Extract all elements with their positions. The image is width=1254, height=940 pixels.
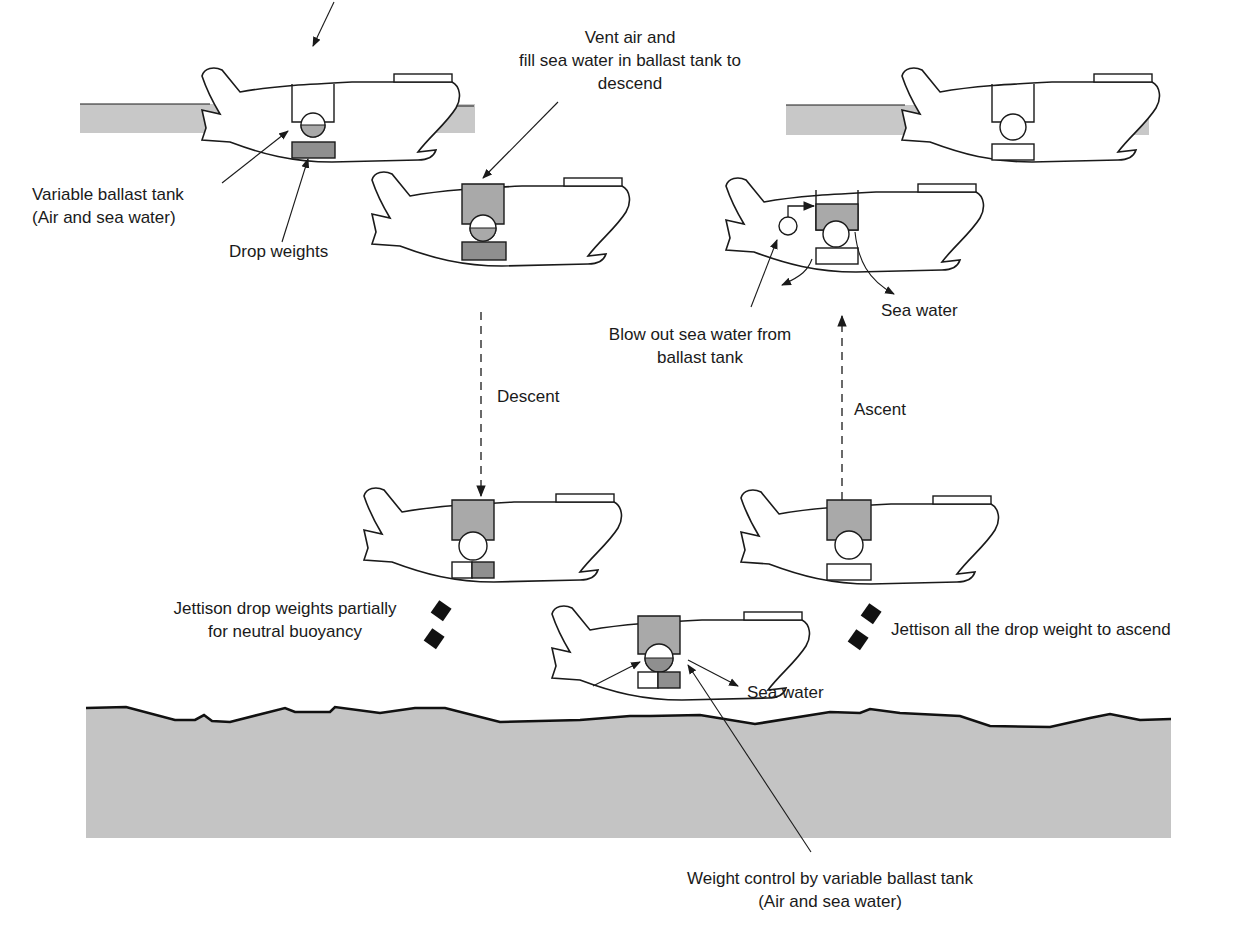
submarine-descending-neutral xyxy=(364,488,621,582)
descent-label: Descent xyxy=(497,385,559,408)
jettison-partial-line-1: Jettison drop weights partially xyxy=(140,597,430,620)
submarine-diving xyxy=(372,172,629,266)
jettison-partial-line-2: for neutral buoyancy xyxy=(140,620,430,643)
ballast-diagram xyxy=(0,0,1254,940)
vent-air-line-3: descend xyxy=(480,72,780,95)
jettison-partial-label: Jettison drop weights partially for neut… xyxy=(140,597,430,643)
submarine-blow-out xyxy=(726,178,983,272)
ascent-label: Ascent xyxy=(854,398,906,421)
weight-control-line-1: Weight control by variable ballast tank xyxy=(660,867,1000,890)
submarine-ascending xyxy=(741,490,998,584)
sea-water-bottom-label: Sea water xyxy=(747,681,824,704)
vbt-line-1: Variable ballast tank xyxy=(32,183,184,206)
sea-water-top-label: Sea water xyxy=(881,299,958,322)
blow-out-line-2: ballast tank xyxy=(570,346,830,369)
submarine-surface-end xyxy=(902,68,1159,162)
blow-out-label: Blow out sea water from ballast tank xyxy=(570,323,830,369)
blow-out-line-1: Blow out sea water from xyxy=(570,323,830,346)
vbt-line-2: (Air and sea water) xyxy=(32,206,184,229)
weight-control-label: Weight control by variable ballast tank … xyxy=(660,867,1000,913)
jettison-all-label: Jettison all the drop weight to ascend xyxy=(891,618,1171,641)
vent-air-line-1: Vent air and xyxy=(480,26,780,49)
vent-air-line-2: fill sea water in ballast tank to xyxy=(480,49,780,72)
dropped-weights-all xyxy=(848,603,882,650)
weight-control-line-2: (Air and sea water) xyxy=(660,890,1000,913)
vent-air-label: Vent air and fill sea water in ballast t… xyxy=(480,26,780,95)
drop-weights-label: Drop weights xyxy=(229,240,328,263)
variable-ballast-tank-label: Variable ballast tank (Air and sea water… xyxy=(32,183,184,229)
submarine-surface-start xyxy=(202,68,459,162)
